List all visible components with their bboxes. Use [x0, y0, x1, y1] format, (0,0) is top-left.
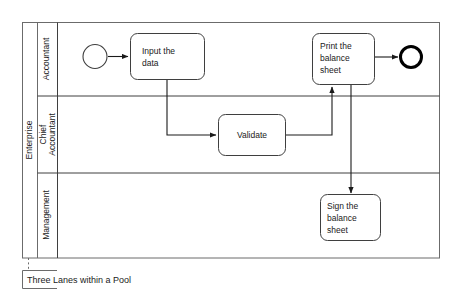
- bpmn-diagram: Enterprise Accountant Chief Accountant M…: [0, 0, 461, 298]
- task-print-the-balance-sheet[interactable]: Print the balance sheet: [313, 34, 375, 85]
- task-print-line2: balance: [320, 53, 350, 63]
- task-sign-line2: balance: [327, 213, 357, 223]
- task-sign-the-balance-sheet[interactable]: Sign the balance sheet: [321, 195, 381, 241]
- lane-management-label: Management: [41, 190, 51, 240]
- start-event[interactable]: [83, 45, 107, 69]
- diagram-canvas: Enterprise Accountant Chief Accountant M…: [0, 0, 461, 298]
- task-sign-line1: Sign the: [327, 201, 358, 211]
- task-input-the-data-line2: data: [142, 58, 159, 68]
- caption-label: Three Lanes within a Pool: [27, 275, 131, 285]
- caption-callout: Three Lanes within a Pool: [23, 271, 132, 289]
- task-print-line1: Print the: [320, 41, 352, 51]
- lane-chief-accountant-label-line2: Accountant: [47, 113, 57, 156]
- lane-accountant-label: Accountant: [41, 37, 51, 80]
- task-input-the-data-line1: Input the: [142, 46, 175, 56]
- task-validate[interactable]: Validate: [219, 115, 286, 156]
- task-validate-label: Validate: [237, 130, 267, 140]
- task-sign-line3: sheet: [327, 225, 348, 235]
- task-input-the-data[interactable]: Input the data: [131, 34, 205, 80]
- task-print-line3: sheet: [320, 65, 341, 75]
- pool-label: Enterprise: [24, 120, 34, 159]
- end-event[interactable]: [401, 47, 422, 68]
- task-input-the-data-box: [131, 34, 205, 80]
